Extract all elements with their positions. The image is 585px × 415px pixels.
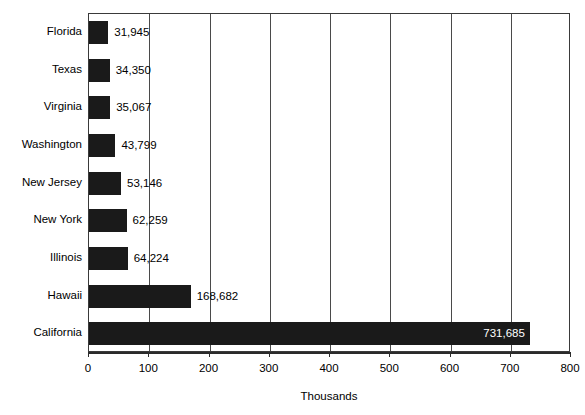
bar-new-york <box>89 209 127 232</box>
x-axis-tick-label: 600 <box>430 360 470 376</box>
bar-florida <box>89 21 108 44</box>
category-label-virginia: Virginia <box>0 97 82 116</box>
x-axis-tick-label: 400 <box>309 360 349 376</box>
x-axis-tick-label: 800 <box>550 360 585 376</box>
bar-row: 35,067 <box>89 89 569 127</box>
bar-row: 34,350 <box>89 52 569 90</box>
x-axis-tick <box>510 352 511 357</box>
bar-value-label: 168,682 <box>197 287 239 306</box>
category-label-hawaii: Hawaii <box>0 286 82 305</box>
category-label-texas: Texas <box>0 60 82 79</box>
category-label-new-york: New York <box>0 210 82 229</box>
category-label-washington: Washington <box>0 135 82 154</box>
x-axis-tick <box>88 352 89 357</box>
x-axis-tick <box>329 352 330 357</box>
bar-washington <box>89 134 115 157</box>
x-axis-tick <box>209 352 210 357</box>
bar-virginia <box>89 96 110 119</box>
category-label-illinois: Illinois <box>0 248 82 267</box>
x-axis-tick-label: 700 <box>490 360 530 376</box>
bar-row: 64,224 <box>89 240 569 278</box>
x-axis-tick <box>450 352 451 357</box>
bar-row: 731,685 <box>89 315 569 353</box>
y-axis-labels: FloridaTexasVirginiaWashingtonNew Jersey… <box>0 13 82 352</box>
bar-value-label: 64,224 <box>134 249 169 268</box>
bar-value-label: 62,259 <box>133 211 168 230</box>
bar-chart: FloridaTexasVirginiaWashingtonNew Jersey… <box>0 0 585 415</box>
bar-value-label: 53,146 <box>127 174 162 193</box>
chart-title <box>88 0 570 1</box>
category-label-california: California <box>0 323 82 342</box>
bar-row: 62,259 <box>89 202 569 240</box>
bar-illinois <box>89 247 128 270</box>
category-label-new-jersey: New Jersey <box>0 173 82 192</box>
x-axis-tick-label: 200 <box>189 360 229 376</box>
plot-area: 31,94534,35035,06743,79953,14662,25964,2… <box>88 13 570 352</box>
bar-row: 53,146 <box>89 165 569 203</box>
bar-row: 43,799 <box>89 127 569 165</box>
category-label-florida: Florida <box>0 22 82 41</box>
x-axis-tick <box>389 352 390 357</box>
x-axis-tick <box>148 352 149 357</box>
bar-new-jersey <box>89 172 121 195</box>
bar-row: 31,945 <box>89 14 569 52</box>
bar-california <box>89 322 530 345</box>
x-axis-tick-label: 500 <box>369 360 409 376</box>
bar-texas <box>89 59 110 82</box>
bar-value-label: 731,685 <box>483 324 525 343</box>
bar-value-label: 35,067 <box>116 98 151 117</box>
x-axis-tick <box>570 352 571 357</box>
x-axis-title: Thousands <box>88 388 570 404</box>
bar-value-label: 43,799 <box>121 136 156 155</box>
x-axis-tick-label: 300 <box>249 360 289 376</box>
bar-value-label: 31,945 <box>114 23 149 42</box>
x-axis-tick-label: 0 <box>68 360 108 376</box>
bar-row: 168,682 <box>89 278 569 316</box>
x-axis-tick <box>269 352 270 357</box>
bar-hawaii <box>89 285 191 308</box>
x-axis-tick-label: 100 <box>128 360 168 376</box>
bar-value-label: 34,350 <box>116 61 151 80</box>
